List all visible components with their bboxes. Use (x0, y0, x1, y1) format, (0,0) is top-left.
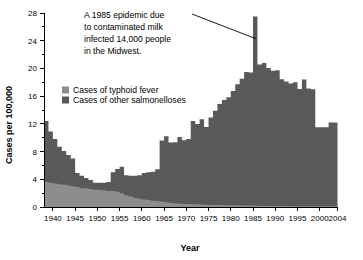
x-tick-label: 1950 (88, 214, 106, 223)
annotation-line-4: in the Midwest. (84, 46, 141, 56)
x-tick-label: 1960 (133, 214, 151, 223)
annotation-line-3: infected 14,000 people (84, 34, 171, 44)
y-tick-label: 8 (33, 148, 38, 157)
x-axis-title: Year (180, 243, 200, 253)
annotation-line-2: to contaminated milk (84, 22, 164, 32)
x-tick-label: 2004 (329, 214, 347, 223)
y-tick-label: 12 (28, 120, 37, 129)
y-tick-label: 24 (28, 37, 37, 46)
x-tick-label: 1945 (66, 214, 84, 223)
x-tick-label: 1995 (289, 214, 307, 223)
y-tick-label: 28 (28, 9, 37, 18)
x-tick-label: 1975 (200, 214, 218, 223)
y-tick-label: 16 (28, 92, 37, 101)
y-tick-label: 20 (28, 64, 37, 73)
x-tick-label: 1970 (177, 214, 195, 223)
y-tick-label: 0 (33, 203, 38, 212)
x-tick-label: 1985 (244, 214, 262, 223)
y-tick-label: 4 (33, 175, 38, 184)
salmonellosis-area-chart: 0481216202428 19401945195019551960196519… (0, 0, 363, 260)
legend-swatch-typhoid (62, 87, 69, 94)
x-tick-label: 1955 (111, 214, 129, 223)
legend-label-typhoid: Cases of typhoid fever (73, 85, 159, 95)
x-tick-label: 1980 (222, 214, 240, 223)
x-tick-label: 1990 (266, 214, 284, 223)
x-tick-label: 2000 (311, 214, 329, 223)
y-axis-title: Cases per 100,000 (4, 86, 14, 164)
annotation-line-1: A 1985 epidemic due (84, 10, 164, 20)
legend-label-salmonelloses: Cases of other salmonelloses (73, 95, 186, 105)
legend-swatch-salmonelloses (62, 97, 69, 104)
x-tick-label: 1940 (44, 214, 62, 223)
x-tick-label: 1965 (155, 214, 173, 223)
chart-container: 0481216202428 19401945195019551960196519… (0, 0, 363, 260)
